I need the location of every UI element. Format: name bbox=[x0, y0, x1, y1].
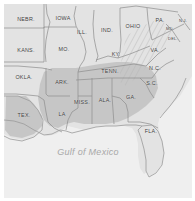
map-figure: NEBR.IOWAILL.IND.OHIOPA.N.J.MD.DEL.KANS.… bbox=[0, 0, 195, 201]
map-graphic bbox=[0, 0, 195, 201]
